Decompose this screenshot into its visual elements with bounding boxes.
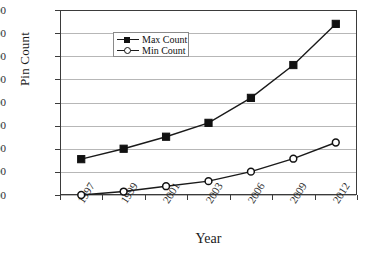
legend-marker-open-circle-icon bbox=[116, 45, 140, 56]
x-axis-title: Year bbox=[60, 231, 357, 247]
data-point-marker-open-circle bbox=[248, 168, 255, 175]
data-point-marker-open-circle bbox=[332, 139, 339, 146]
data-point-marker-open-circle bbox=[120, 188, 127, 195]
data-point-marker-filled-square bbox=[78, 156, 85, 163]
data-point-marker-filled-square bbox=[290, 61, 297, 68]
data-point-marker-open-circle bbox=[163, 183, 170, 190]
data-point-marker-filled-square bbox=[162, 133, 169, 140]
data-point-marker-open-circle bbox=[205, 178, 212, 185]
data-point-marker-open-circle bbox=[78, 192, 85, 199]
legend-item-min-count: Min Count bbox=[116, 45, 188, 56]
chart-figure: Pin Count 100200300400500600700800900 19… bbox=[0, 0, 369, 258]
legend: Max Count Min Count bbox=[113, 32, 189, 57]
legend-item-max-count: Max Count bbox=[116, 34, 188, 45]
legend-label-max-count: Max Count bbox=[140, 34, 187, 45]
data-point-marker-open-circle bbox=[290, 155, 297, 162]
legend-label-min-count: Min Count bbox=[140, 45, 186, 56]
legend-marker-filled-square-icon bbox=[116, 34, 140, 45]
data-point-marker-filled-square bbox=[247, 94, 254, 101]
data-point-marker-filled-square bbox=[205, 119, 212, 126]
data-point-marker-filled-square bbox=[120, 145, 127, 152]
data-point-marker-filled-square bbox=[332, 20, 339, 27]
